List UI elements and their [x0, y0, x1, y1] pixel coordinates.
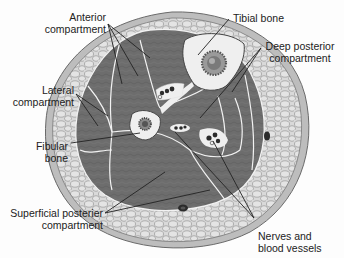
- label-line: Deep posterior: [258, 40, 342, 52]
- label-fibular-bone: Fibular bone: [10, 140, 68, 164]
- label-line: compartment: [30, 23, 106, 35]
- label-nerves-and-blood-vessels: Nerves and blood vessels: [258, 230, 322, 254]
- label-line: compartment: [258, 52, 342, 64]
- label-line: Superficial posterier: [2, 207, 103, 219]
- label-line: compartment: [0, 96, 74, 108]
- label-line: blood vessels: [258, 242, 322, 254]
- label-line: Nerves and: [258, 230, 322, 242]
- label-anterior-compartment: Anterior compartment: [30, 11, 106, 35]
- label-superficial-posterior-compartment: Superficial posterier compartment: [2, 207, 103, 231]
- label-line: Lateral: [0, 84, 74, 96]
- label-line: compartment: [2, 219, 103, 231]
- label-line: bone: [10, 152, 68, 164]
- label-lateral-compartment: Lateral compartment: [0, 84, 74, 108]
- label-line: Anterior: [30, 11, 106, 23]
- label-deep-posterior-compartment: Deep posterior compartment: [258, 40, 342, 64]
- leg-cross-section-diagram: Anterior compartment Tibial bone Deep po…: [0, 0, 344, 258]
- label-tibial-bone: Tibial bone: [233, 12, 284, 24]
- label-line: Fibular: [10, 140, 68, 152]
- label-line: Tibial bone: [233, 12, 284, 24]
